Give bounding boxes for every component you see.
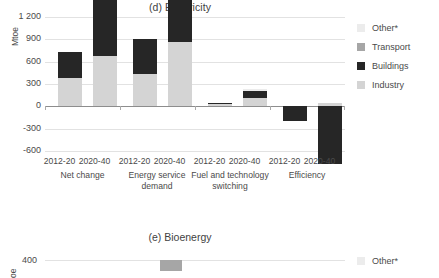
bioenergy-y-axis-label: oe bbox=[8, 269, 18, 278]
bar-segment-industry bbox=[168, 42, 192, 107]
bioenergy-gridline-400 bbox=[45, 260, 345, 261]
bar-segment-buildings bbox=[168, 0, 192, 42]
gridline-1200 bbox=[45, 17, 345, 18]
chart-panel-bioenergy: (e) Bioenergy oe 400 Other* bbox=[0, 218, 439, 271]
bioenergy-bar bbox=[160, 260, 182, 271]
y-tick-neg600: -600 bbox=[1, 146, 41, 155]
bar-segment-industry bbox=[58, 78, 82, 106]
bar-segment-buildings bbox=[243, 91, 267, 98]
bioenergy-y-tick-400: 400 bbox=[22, 255, 37, 265]
bar-segment-buildings bbox=[133, 39, 157, 74]
legend-swatch-buildings-icon bbox=[357, 62, 365, 70]
bar-segment-buildings bbox=[93, 0, 117, 56]
legend-label-industry: Industry bbox=[372, 80, 404, 90]
y-tick-neg300: -300 bbox=[1, 124, 41, 133]
bar-energy-service-demand-2012-20 bbox=[133, 39, 157, 107]
bar-net-change-2012-20 bbox=[58, 52, 82, 106]
x-axis-tick bbox=[120, 106, 121, 110]
bar-segment-industry bbox=[208, 104, 232, 106]
legend-label-transport: Transport bbox=[372, 42, 410, 52]
bar-segment-industry bbox=[133, 74, 157, 107]
x-group-label-energy-service-demand: Energy service demand bbox=[122, 170, 192, 191]
legend-swatch-transport-icon bbox=[357, 43, 365, 51]
bar-fuel-switching-2012-20 bbox=[208, 103, 232, 107]
bar-segment-industry bbox=[243, 98, 267, 106]
chart-panel-electricity: (d) Electricity Mtoe 1 200 900 600 300 0… bbox=[0, 0, 439, 218]
plot-area bbox=[45, 17, 345, 151]
bioenergy-legend-label-other: Other* bbox=[372, 256, 398, 266]
y-tick-600: 600 bbox=[1, 57, 41, 66]
bar-fuel-switching-2020-40 bbox=[243, 89, 267, 106]
legend-label-buildings: Buildings bbox=[372, 61, 409, 71]
legend-swatch-other-icon bbox=[357, 24, 365, 32]
y-tick-0: 0 bbox=[1, 101, 41, 110]
bar-net-change-2020-40 bbox=[93, 0, 117, 106]
legend-item-buildings[interactable]: Buildings bbox=[357, 56, 439, 75]
x-tick-label-fuel-2020-40: 2020-40 bbox=[222, 156, 267, 166]
bar-segment-buildings bbox=[283, 106, 307, 121]
x-group-label-fuel-and-technology-switching: Fuel and technology switching bbox=[190, 170, 270, 191]
x-axis-tick bbox=[270, 106, 271, 110]
y-tick-1200: 1 200 bbox=[1, 12, 41, 21]
x-axis-tick bbox=[344, 106, 345, 110]
x-group-label-efficiency: Efficiency bbox=[272, 170, 342, 181]
y-tick-900: 900 bbox=[1, 34, 41, 43]
y-tick-300: 300 bbox=[1, 79, 41, 88]
gridline-600 bbox=[45, 62, 345, 63]
x-tick-label-efficiency-2020-40: 2020-40 bbox=[297, 156, 342, 166]
legend-item-transport[interactable]: Transport bbox=[357, 37, 439, 56]
x-tick-label-esd-2020-40: 2020-40 bbox=[147, 156, 192, 166]
chart-legend: Other* Transport Buildings Industry bbox=[357, 18, 439, 94]
bioenergy-title: (e) Bioenergy bbox=[0, 231, 360, 243]
x-axis-tick bbox=[195, 106, 196, 110]
legend-item-industry[interactable]: Industry bbox=[357, 75, 439, 94]
bar-segment-buildings bbox=[208, 103, 232, 105]
bar-segment-industry bbox=[93, 56, 117, 106]
bar-efficiency-2012-20 bbox=[283, 106, 307, 121]
legend-label-other: Other* bbox=[372, 23, 398, 33]
bioenergy-legend: Other* bbox=[357, 256, 398, 266]
x-axis-tick bbox=[45, 106, 46, 110]
gridline-300 bbox=[45, 84, 345, 85]
bar-segment-buildings bbox=[58, 52, 82, 78]
x-tick-label-net-change-2020-40: 2020-40 bbox=[72, 156, 117, 166]
legend-item-other[interactable]: Other* bbox=[357, 18, 439, 37]
gridline-900 bbox=[45, 39, 345, 40]
legend-swatch-other-icon bbox=[357, 257, 365, 265]
legend-swatch-industry-icon bbox=[357, 81, 365, 89]
gridline-neg300 bbox=[45, 129, 345, 130]
gridline-neg600 bbox=[45, 151, 345, 152]
y-axis-ticks: 1 200 900 600 300 0 -300 -600 bbox=[0, 17, 41, 151]
x-group-label-net-change: Net change bbox=[45, 170, 120, 181]
bar-segment-other bbox=[243, 89, 267, 91]
bar-energy-service-demand-2020-40 bbox=[168, 0, 192, 106]
